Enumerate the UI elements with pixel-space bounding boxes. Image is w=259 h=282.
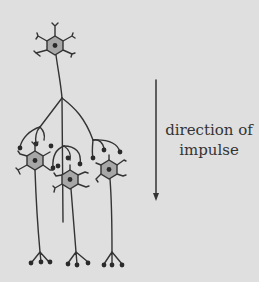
postsynaptic-neuron-right (96, 155, 126, 264)
nucleus-icon (53, 43, 58, 48)
postsynaptic-neuron-middle (53, 165, 89, 264)
label-line-2: impulse (163, 140, 255, 160)
presynaptic-neuron (20, 23, 120, 222)
label-line-1: direction of (163, 120, 255, 140)
direction-arrow-icon (153, 80, 159, 201)
postsynaptic-neuron-left (16, 142, 53, 262)
direction-of-impulse-label: direction of impulse (163, 120, 255, 160)
